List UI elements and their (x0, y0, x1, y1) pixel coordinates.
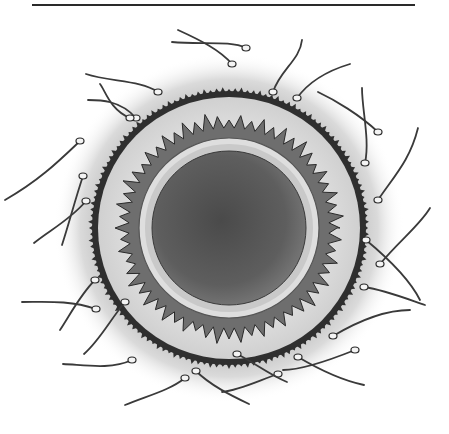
sperm-head (79, 173, 87, 179)
sperm-head (269, 89, 277, 95)
sperm-head (374, 197, 382, 203)
sperm-head (361, 160, 369, 166)
sperm-head (376, 261, 384, 267)
sperm-head (294, 354, 302, 360)
sperm-head (351, 347, 359, 353)
sperm-head (91, 277, 99, 283)
sperm-head (154, 89, 162, 95)
sperm-head (76, 138, 84, 144)
sperm-head (126, 115, 134, 121)
sperm-head (92, 306, 100, 312)
cytoplasm (152, 151, 306, 305)
sperm-head (128, 357, 136, 363)
sperm-head (228, 61, 236, 67)
sperm-head (329, 333, 337, 339)
sperm-head (293, 95, 301, 101)
sperm-head (233, 351, 241, 357)
sperm-head (362, 237, 370, 243)
sperm-head (374, 129, 382, 135)
sperm-head (82, 198, 90, 204)
sperm-head (121, 299, 129, 305)
sperm-head (181, 375, 189, 381)
sperm-head (242, 45, 250, 51)
sperm-head (192, 368, 200, 374)
egg-cell-illustration (0, 0, 449, 434)
sperm-head (360, 284, 368, 290)
